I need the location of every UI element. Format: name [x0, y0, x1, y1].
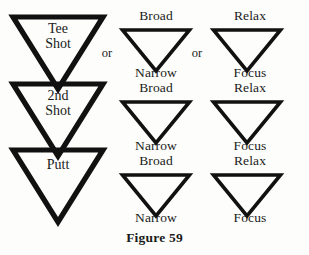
width-triangle-1-bottom-label: Narrow [118, 66, 194, 80]
width-triangle-1-top-label: Broad [118, 9, 194, 23]
state-triangle-1-top-label: Relax [212, 9, 288, 23]
width-triangle-2-bottom-label: Narrow [118, 139, 194, 153]
width-triangle-3-top-label: Broad [118, 154, 194, 168]
state-triangle-1-bottom-label: Focus [212, 66, 288, 80]
or-connector-1: or [95, 46, 119, 61]
figure-caption: Figure 59 [0, 230, 309, 246]
stage-triangle-2nd-shot-label: 2nd Shot [26, 89, 90, 118]
state-triangle-2-bottom-label: Focus [212, 139, 288, 153]
state-triangle-2-top-label: Relax [212, 81, 288, 95]
width-triangle-2-top-label: Broad [118, 81, 194, 95]
stage-triangle-tee-shot-label: Tee Shot [26, 22, 90, 51]
state-triangle-3-top-label: Relax [212, 154, 288, 168]
state-triangle-3-bottom-label: Focus [212, 211, 288, 225]
stage-triangle-putt-label: Putt [26, 158, 90, 173]
width-triangle-3-bottom-label: Narrow [118, 211, 194, 225]
figure-59-diagram: Tee Shot 2nd Shot Putt or or Broad Narro… [0, 0, 309, 255]
